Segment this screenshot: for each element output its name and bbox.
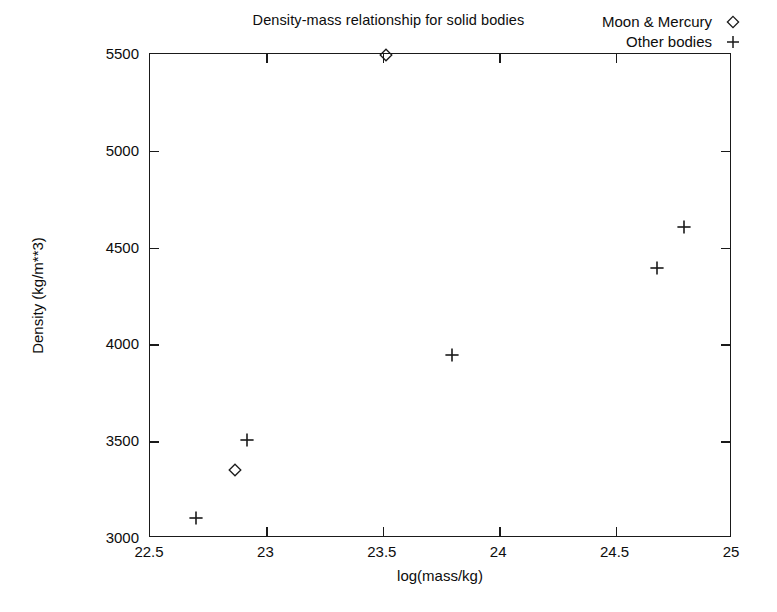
- x-tick-bottom: [383, 527, 384, 536]
- x-tick-label: 24: [490, 543, 507, 560]
- x-tick-top: [266, 54, 267, 63]
- x-tick-bottom: [266, 527, 267, 536]
- y-tick-label: 5000: [139, 141, 172, 158]
- y-tick-right: [721, 441, 730, 442]
- legend-item-moon-mercury: Moon & Mercury: [602, 12, 741, 32]
- y-axis-label: Density (kg/m**3): [29, 196, 46, 396]
- diamond-marker-icon: [725, 14, 741, 30]
- y-tick-right: [721, 151, 730, 152]
- x-tick-bottom: [616, 527, 617, 536]
- chart-figure: Density-mass relationship for solid bodi…: [0, 0, 777, 612]
- y-tick-label: 5500: [139, 45, 172, 62]
- y-tick-right: [721, 344, 730, 345]
- y-tick-label: 4500: [139, 238, 172, 255]
- chart-legend: Moon & Mercury Other bodies: [602, 12, 741, 52]
- x-tick-top: [616, 54, 617, 63]
- plus-marker-icon: [725, 34, 741, 50]
- x-tick-label: 23: [257, 543, 274, 560]
- y-tick-label: 4000: [139, 335, 172, 352]
- legend-item-other-bodies: Other bodies: [602, 32, 741, 52]
- x-tick-label: 25: [723, 543, 740, 560]
- x-axis-label: log(mass/kg): [149, 567, 731, 584]
- x-tick-label: 23.5: [367, 543, 396, 560]
- x-tick-bottom: [499, 527, 500, 536]
- legend-label-moon-mercury: Moon & Mercury: [602, 12, 712, 32]
- x-tick-label: 22.5: [134, 543, 163, 560]
- x-tick-top: [499, 54, 500, 63]
- y-tick-right: [721, 248, 730, 249]
- y-tick-label: 3000: [139, 529, 172, 546]
- y-tick-label: 3500: [139, 432, 172, 449]
- x-tick-label: 24.5: [600, 543, 629, 560]
- legend-label-other-bodies: Other bodies: [626, 32, 712, 52]
